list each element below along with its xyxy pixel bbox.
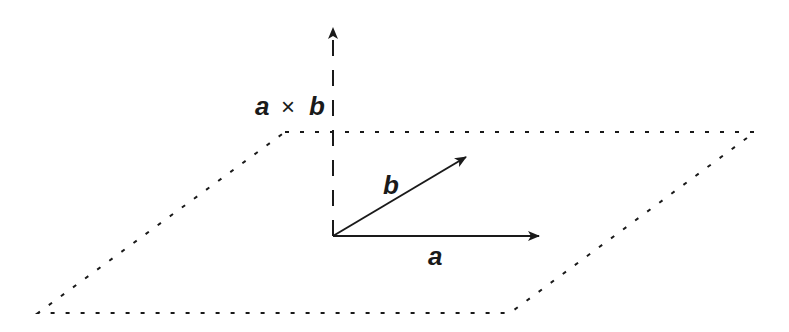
cross-product-diagram: a × b b a (0, 0, 789, 332)
cross-product-operator: × (281, 93, 295, 120)
cross-product-label-a: a (255, 91, 269, 121)
cross-product-label-b: b (309, 91, 325, 121)
vector-b-label: b (383, 170, 399, 200)
plane-parallelogram (38, 132, 755, 313)
vector-a-label: a (428, 241, 442, 271)
vector-b (333, 157, 466, 236)
